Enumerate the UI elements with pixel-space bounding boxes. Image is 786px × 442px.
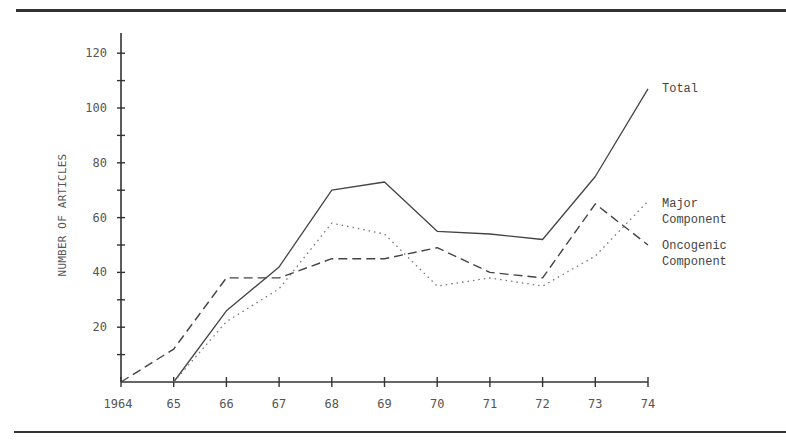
legend-oncogenic-line2: Component xyxy=(662,255,727,269)
series-oncogenic-component xyxy=(121,204,648,382)
x-tick-label: 68 xyxy=(325,397,339,411)
axes: 20406080100120196465666768697071727374 xyxy=(85,33,655,411)
x-tick-label: 1964 xyxy=(104,397,133,411)
y-tick-label: 80 xyxy=(93,156,107,170)
y-axis-label: NUMBER OF ARTICLES xyxy=(56,154,69,277)
x-tick-label: 66 xyxy=(219,397,233,411)
y-tick-label: 60 xyxy=(93,211,107,225)
legend-major-line1: Major xyxy=(662,197,698,211)
data-lines xyxy=(121,89,648,382)
legend-oncogenic-line1: Oncogenic xyxy=(662,239,727,253)
y-tick-label: 100 xyxy=(85,101,107,115)
series-major-component xyxy=(174,201,648,382)
y-tick-label: 20 xyxy=(93,320,107,334)
y-tick-label: 40 xyxy=(93,265,107,279)
x-tick-label: 70 xyxy=(430,397,444,411)
x-tick-label: 65 xyxy=(166,397,180,411)
x-tick-label: 67 xyxy=(272,397,286,411)
x-tick-label: 69 xyxy=(377,397,391,411)
x-tick-label: 73 xyxy=(588,397,602,411)
x-tick-label: 71 xyxy=(483,397,497,411)
line-chart: 20406080100120196465666768697071727374 N… xyxy=(0,0,786,442)
y-tick-label: 120 xyxy=(85,46,107,60)
x-tick-label: 74 xyxy=(641,397,655,411)
legend-major-line2: Component xyxy=(662,213,727,227)
legend-total: Total xyxy=(662,82,698,96)
series-total xyxy=(174,89,648,382)
x-tick-label: 72 xyxy=(535,397,549,411)
